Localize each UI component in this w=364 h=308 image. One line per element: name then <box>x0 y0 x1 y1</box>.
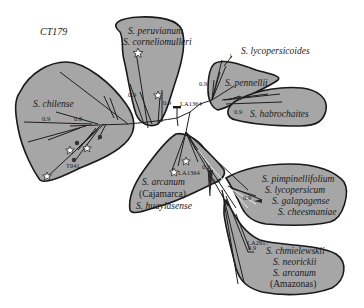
accession-label-la1364-top: LA1364 <box>180 100 202 107</box>
label-s-huaylasense: S. huaylasense <box>136 201 192 211</box>
label-s-chmielewskii: S. chmielewskii <box>266 246 325 256</box>
label-s-habrochaites: S. habrochaites <box>250 109 309 119</box>
dot-icon <box>238 96 242 100</box>
label-s-lycopersicum: S. lycopersicum <box>265 185 325 195</box>
label-s-pennellii: S. pennellii <box>225 78 268 88</box>
dot-icon <box>98 135 102 139</box>
accession-label-la1364-mid: LA1364 <box>178 169 200 176</box>
support-value: 0.8 <box>74 115 82 122</box>
label-s-neorickii: S. neorickii <box>273 257 317 267</box>
label-s-galapagense: S. galapagense <box>272 196 330 206</box>
label-s-pimpinellifolium: S. pimpinellifolium <box>262 174 334 184</box>
label-s-arcanum-cajamarca: S. arcanum <box>142 177 185 187</box>
dot-icon <box>75 141 79 145</box>
figure-title: CT179 <box>40 26 67 37</box>
support-value: 0.9 <box>234 108 242 115</box>
label-s-corneliomulleri: S. corneliomulleri <box>123 37 192 47</box>
label-s-peruvianum: S. peruvianum <box>128 26 183 36</box>
support-value: 1 <box>229 52 232 59</box>
support-value: 0.9 <box>128 91 136 98</box>
support-value: 0.9 <box>42 115 50 122</box>
support-value: 0.9 <box>163 99 171 106</box>
label-s-cheesmaniae: S. cheesmaniae <box>278 207 337 217</box>
support-value: 0.8 <box>212 177 220 184</box>
support-value: 0.9 <box>202 163 210 170</box>
accession-label-la2917: LA2917 <box>247 239 269 246</box>
label-cajamarca: (Cajamarca) <box>139 189 186 200</box>
label-amazonas: (Amazonas) <box>270 279 316 290</box>
support-value: 0.9 <box>199 80 207 87</box>
support-value: 0.9 <box>243 194 251 201</box>
accession-label-t041: T041 <box>66 162 80 169</box>
phylogenetic-tree-figure: CT179 <box>0 0 364 308</box>
label-s-lycopersicoides: S. lycopersicoides <box>241 46 310 56</box>
label-s-arcanum-amazonas: S. arcanum <box>273 268 316 278</box>
label-s-chilense: S. chilense <box>33 99 74 109</box>
